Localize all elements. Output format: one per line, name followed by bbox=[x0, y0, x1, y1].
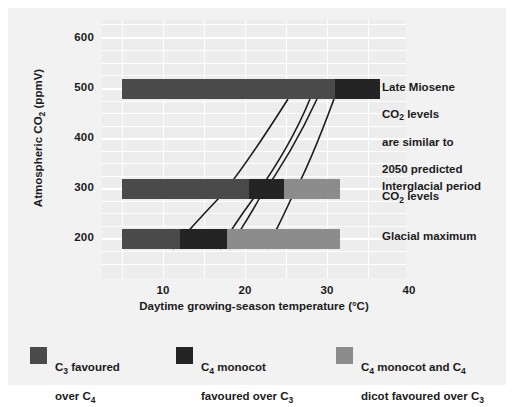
legend-label-c4-monocot: C4 monocot favoured over C3 bbox=[201, 346, 293, 407]
plot-area bbox=[102, 20, 406, 278]
bar-segment-c4-monocot bbox=[180, 229, 227, 249]
annotation-line: 2050 predicted bbox=[382, 163, 463, 177]
annotation-interglacial: Interglacial period bbox=[382, 180, 481, 194]
legend-label-line: over C4 bbox=[55, 389, 120, 404]
bar-segment-c3 bbox=[122, 179, 249, 199]
bar-segment-c4-monocot bbox=[249, 179, 284, 199]
subscript-4: 4 bbox=[369, 366, 374, 376]
legend-label-line: favoured over C3 bbox=[201, 389, 293, 404]
legend-label-line: C3 favoured bbox=[55, 360, 120, 375]
y-tick-500: 500 bbox=[48, 81, 94, 93]
legend-item-c3: C3 favoured over C4 bbox=[30, 346, 120, 407]
y-axis-label-pre: Atmospheric CO bbox=[32, 116, 44, 207]
bar-300-ppmv bbox=[122, 179, 340, 199]
y-tick-600: 600 bbox=[48, 31, 94, 43]
bar-segment-c4-monocot-dicot bbox=[227, 229, 340, 249]
annotation-line: Late Miosene bbox=[382, 81, 463, 95]
annotation-glacial: Glacial maximum bbox=[382, 230, 477, 244]
y-axis-label: Atmospheric CO2 (ppmV) bbox=[32, 38, 44, 238]
y-axis-label-post: (ppmV) bbox=[32, 69, 44, 112]
legend-label-line: C4 monocot and C4 bbox=[361, 360, 484, 375]
x-tick-20: 20 bbox=[225, 284, 265, 296]
bar-segment-c4-monocot bbox=[335, 79, 380, 99]
bar-segment-c4-monocot-dicot bbox=[284, 179, 340, 199]
co2-subscript: 2 bbox=[399, 112, 404, 122]
bar-500-ppmv bbox=[122, 79, 380, 99]
subscript-3: 3 bbox=[289, 395, 294, 405]
legend-label-line: dicot favoured over C3 bbox=[361, 389, 484, 404]
x-tick-30: 30 bbox=[307, 284, 347, 296]
legend-swatch-c3 bbox=[30, 347, 47, 364]
legend-swatch-c4-monocot-dicot bbox=[336, 347, 353, 364]
y-tick-200: 200 bbox=[48, 231, 94, 243]
subscript-4: 4 bbox=[209, 366, 214, 376]
legend-swatch-c4-monocot bbox=[176, 347, 193, 364]
legend: C3 favoured over C4 C4 monocot favoured … bbox=[0, 338, 514, 384]
y-tick-300: 300 bbox=[48, 181, 94, 193]
annotation-late-miosene: Late Miosene CO2 levels are similar to 2… bbox=[382, 67, 463, 219]
y-axis-label-subscript: 2 bbox=[37, 112, 47, 117]
annotation-line: CO2 levels bbox=[382, 108, 463, 123]
subscript-3: 3 bbox=[63, 366, 68, 376]
y-tick-400: 400 bbox=[48, 131, 94, 143]
subscript-4: 4 bbox=[461, 366, 466, 376]
subscript-4: 4 bbox=[91, 395, 96, 405]
subscript-3: 3 bbox=[479, 395, 484, 405]
x-tick-10: 10 bbox=[143, 284, 183, 296]
legend-label-c4-monocot-dicot: C4 monocot and C4 dicot favoured over C3 bbox=[361, 346, 484, 407]
bar-segment-c3 bbox=[122, 229, 180, 249]
boundary-curve-2 bbox=[220, 99, 310, 249]
x-tick-40: 40 bbox=[389, 284, 429, 296]
legend-item-c4-monocot-dicot: C4 monocot and C4 dicot favoured over C3 bbox=[336, 346, 484, 407]
x-axis-label: Daytime growing-season temperature (°C) bbox=[102, 300, 406, 312]
legend-label-line: C4 monocot bbox=[201, 360, 293, 375]
co2-subscript: 2 bbox=[399, 195, 404, 205]
legend-item-c4-monocot: C4 monocot favoured over C3 bbox=[176, 346, 293, 407]
legend-label-c3: C3 favoured over C4 bbox=[55, 346, 120, 407]
annotation-line: are similar to bbox=[382, 136, 463, 150]
bar-200-ppmv bbox=[122, 229, 340, 249]
bar-segment-c3 bbox=[122, 79, 335, 99]
